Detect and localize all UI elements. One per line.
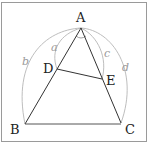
geometry-diagram: A B C D E a b c d bbox=[0, 0, 150, 145]
label-E: E bbox=[106, 73, 116, 88]
arc-label-a: a bbox=[51, 41, 58, 54]
label-B: B bbox=[10, 122, 20, 137]
label-A: A bbox=[75, 10, 86, 25]
label-C: C bbox=[125, 122, 135, 137]
segment-DE bbox=[57, 69, 102, 79]
arc-label-c: c bbox=[104, 47, 110, 60]
arc-label-d: d bbox=[122, 61, 129, 74]
label-D: D bbox=[43, 61, 53, 76]
arc-label-b: b bbox=[22, 55, 29, 68]
